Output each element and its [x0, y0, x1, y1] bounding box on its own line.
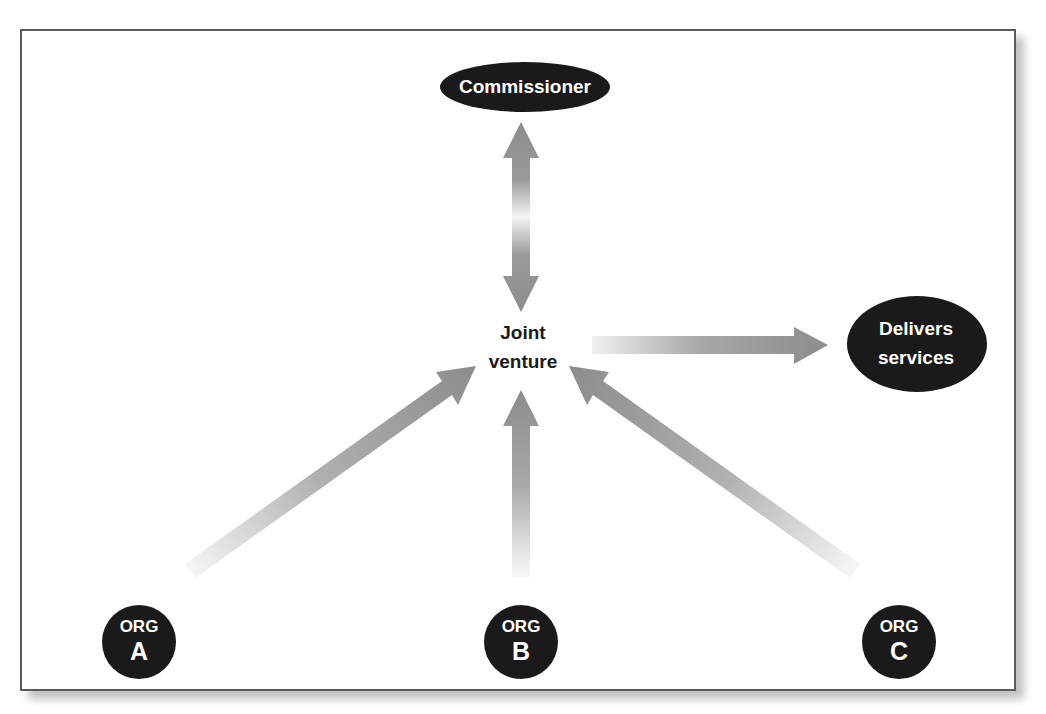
node-commissioner: Commissioner [440, 62, 610, 112]
node-org-c-line1: ORG [880, 617, 919, 636]
node-org-c-line2: C [890, 637, 908, 665]
arrow-org-b-jv [503, 390, 539, 578]
node-org-a: ORG A [102, 605, 176, 679]
arrow-jv-commissioner [503, 122, 539, 312]
node-delivers-services-line2: services [878, 347, 954, 368]
arrow-org-a-jv [185, 366, 476, 578]
node-delivers-services: Delivers services [847, 296, 987, 392]
diagram-canvas: Commissioner Joint venture Delivers serv… [0, 0, 1046, 714]
node-joint-venture-line1: Joint [500, 322, 546, 343]
node-org-b-line1: ORG [502, 617, 541, 636]
arrow-org-c-jv [569, 366, 860, 578]
node-commissioner-label: Commissioner [459, 76, 592, 97]
node-org-b-line2: B [512, 637, 530, 665]
node-org-a-line2: A [130, 637, 148, 665]
node-joint-venture-line2: venture [489, 351, 558, 372]
node-org-c: ORG C [862, 605, 936, 679]
node-delivers-services-line1: Delivers [879, 318, 953, 339]
node-org-a-line1: ORG [120, 617, 159, 636]
node-org-b: ORG B [484, 605, 558, 679]
node-joint-venture: Joint venture [489, 322, 558, 372]
arrow-jv-delivers-services [592, 327, 828, 364]
